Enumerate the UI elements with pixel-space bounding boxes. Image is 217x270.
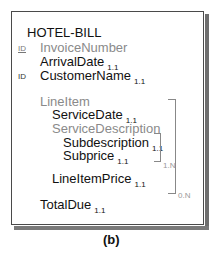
attribute-name: LineItemPrice [52, 171, 131, 186]
figure-caption: (b) [103, 232, 120, 247]
attribute-subprice: Subprice1.1 [63, 149, 128, 164]
cardinality: 1.1 [134, 77, 145, 86]
attribute-total-due: TotalDue1.1 [40, 198, 105, 213]
cardinality: 1.1 [117, 157, 128, 166]
attribute-name: Subprice [63, 148, 114, 163]
attribute-name: TotalDue [40, 197, 91, 212]
attribute-invoice-number: InvoiceNumber [40, 41, 127, 54]
attribute-name: CustomerName [40, 68, 131, 83]
entity-title: HOTEL-BILL [27, 26, 101, 39]
box-shadow-right [205, 14, 209, 228]
attribute-customer-name: CustomerName1.1 [40, 69, 145, 84]
attribute-name: InvoiceNumber [40, 40, 127, 55]
cardinality-service-description: 1.N [163, 161, 175, 170]
id-marker-customer: ID [18, 73, 26, 81]
cardinality-line-item: 0.N [178, 191, 190, 200]
attribute-name: ArrivalDate [40, 54, 104, 69]
bracket-service-description [154, 133, 161, 162]
attribute-name: ServiceDate [52, 107, 123, 122]
cardinality: 1.1 [94, 206, 105, 215]
attribute-line-item-price: LineItemPrice1.1 [52, 172, 146, 187]
bracket-line-item [168, 99, 176, 194]
group-service-description: ServiceDescription [52, 122, 160, 135]
id-marker-invoice: ID [18, 45, 26, 53]
cardinality: 1.1 [134, 180, 145, 189]
box-shadow-bottom [14, 226, 209, 230]
